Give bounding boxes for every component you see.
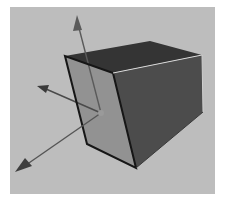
cube-axes-figure — [0, 0, 226, 202]
origin-point — [98, 110, 104, 116]
